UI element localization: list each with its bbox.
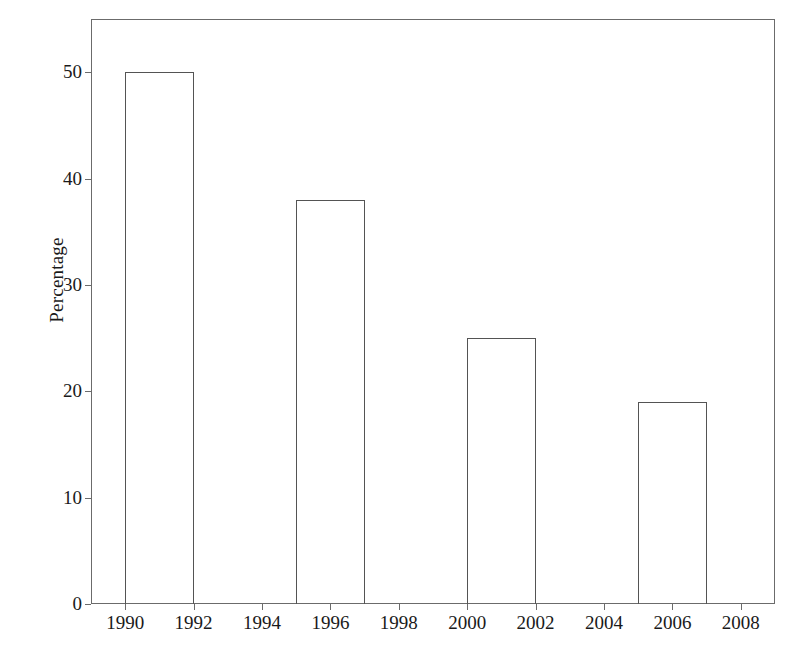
bar: [125, 72, 193, 604]
bar-chart-figure: Percentage 01020304050 19901992199419961…: [0, 0, 797, 655]
x-tick-mark: [741, 604, 742, 610]
x-tick-mark: [330, 604, 331, 610]
y-tick-label: 40: [0, 169, 82, 189]
bar: [467, 338, 535, 604]
x-tick-mark: [262, 604, 263, 610]
x-tick-mark: [467, 604, 468, 610]
y-tick-mark: [85, 391, 91, 392]
x-tick-label: 2008: [701, 612, 781, 634]
x-tick-mark: [125, 604, 126, 610]
x-tick-mark: [536, 604, 537, 610]
y-tick-label: 50: [0, 62, 82, 82]
y-tick-mark: [85, 285, 91, 286]
y-tick-label: 20: [0, 381, 82, 401]
bar: [638, 402, 706, 604]
y-tick-mark: [85, 498, 91, 499]
y-tick-label: 0: [0, 594, 82, 614]
bar: [296, 200, 364, 604]
y-tick-mark: [85, 604, 91, 605]
x-tick-mark: [399, 604, 400, 610]
y-tick-label: 10: [0, 488, 82, 508]
y-tick-mark: [85, 179, 91, 180]
x-tick-mark: [672, 604, 673, 610]
x-tick-mark: [194, 604, 195, 610]
y-tick-mark: [85, 72, 91, 73]
x-tick-mark: [604, 604, 605, 610]
y-tick-label: 30: [0, 275, 82, 295]
